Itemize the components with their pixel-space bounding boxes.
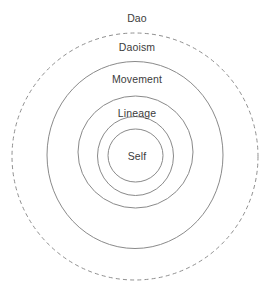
ring-circle-self (108, 129, 163, 182)
ring-circle-movement (78, 96, 193, 208)
ring-circle-dao (12, 33, 258, 280)
concentric-circles-diagram: Dao Daoism Movement Lineage Self (0, 0, 274, 297)
ring-circle-daoism (47, 62, 223, 249)
diagram-canvas (0, 0, 274, 297)
ring-circle-lineage (98, 117, 174, 196)
